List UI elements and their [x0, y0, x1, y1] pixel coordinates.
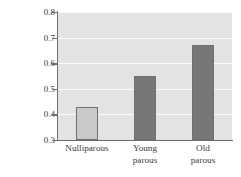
x-axis-line	[57, 140, 233, 141]
y-axis-line	[57, 11, 58, 141]
x-axis-tick-label-line: Nulliparous	[65, 143, 108, 155]
y-axis-tick-mark	[52, 89, 58, 90]
y-axis-tick-mark	[52, 140, 58, 141]
y-axis-tick-mark	[52, 38, 58, 39]
x-axis-tick-label: Youngparous	[133, 143, 158, 166]
y-axis-tick-mark	[52, 114, 58, 115]
bar-chart-figure: Mean standardized rank of copulation par…	[0, 0, 241, 177]
y-axis-tick-labels: 0.30.40.50.60.70.8	[33, 12, 55, 140]
y-axis-tick-mark	[52, 63, 58, 64]
bar-nulliparous	[76, 107, 98, 140]
x-axis-tick-label: Oldparous	[191, 143, 216, 166]
x-axis-tick-labels: NulliparousYoungparousOldparous	[58, 143, 232, 175]
x-axis-tick-label-line: parous	[133, 155, 158, 167]
x-axis-tick-label-line: Old	[191, 143, 216, 155]
plot-area	[58, 12, 232, 140]
x-axis-tick-label-line: parous	[191, 155, 216, 167]
y-axis-tick-mark	[52, 12, 58, 13]
gridline	[58, 38, 232, 39]
bar-old-parous	[192, 45, 214, 140]
gridline	[58, 12, 232, 13]
x-axis-tick-label: Nulliparous	[65, 143, 108, 155]
bar-young-parous	[134, 76, 156, 140]
x-axis-tick-label-line: Young	[133, 143, 158, 155]
